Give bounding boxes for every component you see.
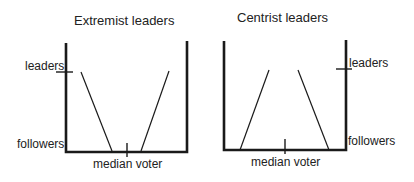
centrist-median-label: median voter [251, 155, 320, 169]
extremist-title: Extremist leaders [74, 13, 174, 28]
extremist-right-line [141, 71, 169, 151]
centrist-title: Centrist leaders [237, 10, 328, 25]
centrist-panel-lines [224, 40, 352, 154]
extremist-panel-lines [56, 41, 187, 157]
extremist-leaders-label: leaders [25, 59, 64, 73]
centrist-followers-label: followers [348, 134, 395, 148]
centrist-box [224, 40, 346, 150]
centrist-right-line [298, 70, 329, 150]
extremist-followers-label: followers [17, 137, 64, 151]
diagram: Extremist leaders leaders followers medi… [0, 0, 414, 182]
diagram-lines [0, 0, 414, 182]
extremist-left-line [81, 72, 112, 151]
centrist-left-line [240, 70, 269, 150]
extremist-box [66, 41, 187, 152]
centrist-leaders-label: leaders [349, 56, 388, 70]
extremist-median-label: median voter [93, 157, 162, 171]
